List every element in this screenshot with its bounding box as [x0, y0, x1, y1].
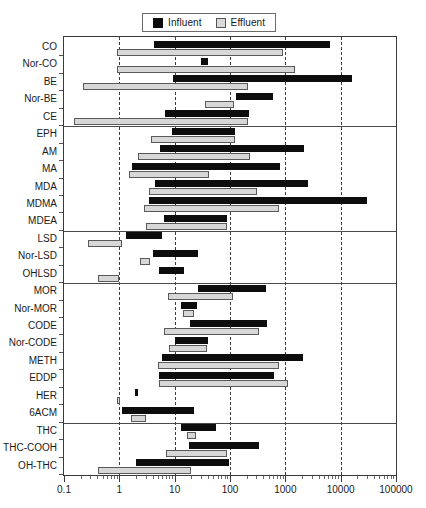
range-bar-influent-mdma: [149, 197, 367, 204]
category-tick: [59, 422, 63, 423]
range-bar-influent-eph: [172, 128, 235, 135]
x-tick-minor: [191, 476, 192, 479]
range-bar-influent-meth: [162, 354, 304, 361]
category-label-nor-lsd: Nor-LSD: [0, 251, 57, 261]
x-tick-minor: [172, 476, 173, 479]
chart-root: Influent Effluent CONor-COBENor-BECEEPHA…: [0, 0, 426, 508]
x-tick-minor: [302, 476, 303, 479]
category-label-nor-mor: Nor-MOR: [0, 304, 57, 314]
range-bar-influent-mdea: [164, 215, 227, 222]
x-tick-minor: [213, 476, 214, 479]
range-bar-effluent-nor-be: [205, 101, 235, 108]
range-bar-effluent-nor-lsd: [140, 258, 150, 265]
x-tick-minor: [227, 476, 228, 479]
category-tick: [59, 439, 63, 440]
x-tick-minor: [379, 476, 380, 479]
x-tick-label-10000: 10000: [327, 485, 355, 495]
range-bar-effluent-thc: [187, 432, 195, 439]
x-tick-minor: [393, 476, 394, 479]
legend-swatch-influent: [153, 18, 163, 28]
legend-entry-influent: Influent: [153, 18, 202, 28]
range-bar-influent-ce: [165, 110, 249, 117]
x-tick-major-10: [175, 476, 176, 482]
range-bar-influent-nor-co: [201, 58, 208, 65]
range-bar-influent-nor-mor: [181, 302, 197, 309]
category-tick: [59, 55, 63, 56]
legend-label-influent: Influent: [168, 18, 202, 28]
category-tick: [59, 317, 63, 318]
category-tick: [59, 195, 63, 196]
range-bar-influent-nor-be: [236, 93, 273, 100]
x-tick-minor: [162, 476, 163, 479]
x-tick-minor: [136, 476, 137, 479]
x-tick-minor: [263, 476, 264, 479]
range-bar-effluent-lsd: [88, 240, 122, 247]
range-bar-influent-nor-lsd: [153, 250, 198, 257]
category-label-nor-code: Nor-CODE: [0, 338, 57, 348]
range-bar-influent-mda: [155, 180, 308, 187]
range-bar-effluent-ohlsd: [98, 275, 119, 282]
x-tick-minor: [169, 476, 170, 479]
gridline-1000: [285, 37, 286, 475]
range-bar-effluent-nor-co: [117, 66, 295, 73]
x-tick-minor: [332, 476, 333, 479]
category-tick: [59, 212, 63, 213]
x-tick-minor: [146, 476, 147, 479]
x-tick-minor: [335, 476, 336, 479]
range-bar-influent-co: [154, 41, 329, 48]
x-tick-minor: [247, 476, 248, 479]
legend-swatch-effluent: [216, 18, 226, 28]
x-tick-minor: [324, 476, 325, 479]
x-tick-minor: [387, 476, 388, 479]
range-bar-influent-mor: [198, 285, 267, 292]
category-tick: [59, 387, 63, 388]
x-tick-minor: [221, 476, 222, 479]
x-tick-major-100: [230, 476, 231, 482]
category-tick: [59, 178, 63, 179]
x-tick-minor: [225, 476, 226, 479]
x-tick-major-0.1: [64, 476, 65, 482]
category-label-mdma: MDMA: [0, 199, 57, 209]
category-label-meth: METH: [0, 356, 57, 366]
category-label-6acm: 6ACM: [0, 408, 57, 418]
x-tick-minor: [158, 476, 159, 479]
category-tick: [59, 457, 63, 458]
x-tick-minor: [201, 476, 202, 479]
x-tick-minor: [114, 476, 115, 479]
range-bar-effluent-eddp: [159, 380, 288, 387]
x-tick-label-1: 1: [117, 485, 123, 495]
x-tick-minor: [97, 476, 98, 479]
range-bar-effluent-thc-cooh: [166, 450, 227, 457]
category-label-code: CODE: [0, 321, 57, 331]
x-tick-minor: [273, 476, 274, 479]
range-bar-influent-eddp: [159, 372, 274, 379]
range-bar-effluent-mda: [149, 188, 257, 195]
category-tick: [59, 143, 63, 144]
group-separator-after-6acm: [64, 423, 396, 424]
category-tick: [59, 160, 63, 161]
x-tick-minor: [256, 476, 257, 479]
category-label-co: CO: [0, 42, 57, 52]
x-tick-minor: [283, 476, 284, 479]
range-bar-effluent-ce: [74, 118, 248, 125]
category-tick: [59, 334, 63, 335]
x-tick-minor: [374, 476, 375, 479]
x-tick-minor: [384, 476, 385, 479]
category-label-ma: MA: [0, 164, 57, 174]
range-bar-effluent-mdea: [146, 223, 228, 230]
group-separator-after-mdea: [64, 231, 396, 232]
category-label-thc: THC: [0, 426, 57, 436]
category-tick: [59, 90, 63, 91]
category-tick: [59, 108, 63, 109]
range-bar-influent-oh-thc: [136, 459, 229, 466]
range-bar-effluent-am: [138, 153, 250, 160]
category-label-mor: MOR: [0, 286, 57, 296]
category-label-thc-cooh: THC-COOH: [0, 443, 57, 453]
x-tick-minor: [277, 476, 278, 479]
x-tick-minor: [391, 476, 392, 479]
category-label-eddp: EDDP: [0, 373, 57, 383]
x-tick-minor: [153, 476, 154, 479]
chart-legend: Influent Effluent: [142, 13, 276, 32]
x-tick-label-0.1: 0.1: [57, 485, 71, 495]
category-label-mdea: MDEA: [0, 216, 57, 226]
